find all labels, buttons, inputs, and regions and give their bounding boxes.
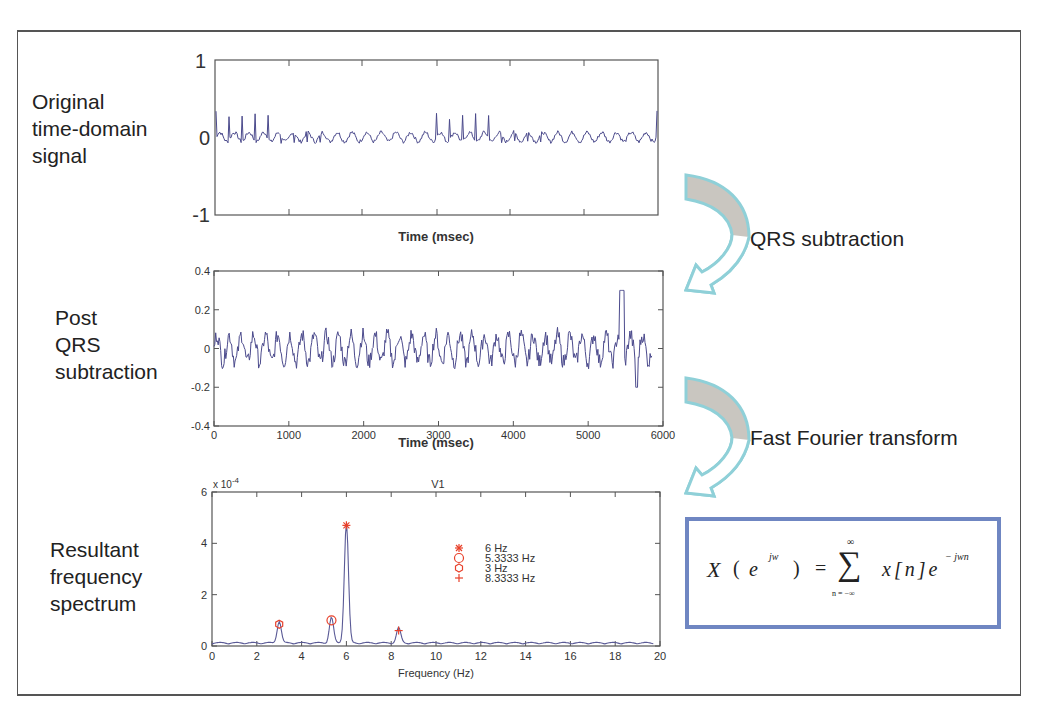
formula-paren-close: ): [793, 557, 800, 580]
svg-text:5000: 5000: [576, 429, 600, 441]
svg-text:0: 0: [204, 343, 210, 355]
svg-text:4: 4: [299, 650, 305, 662]
svg-text:2000: 2000: [351, 429, 375, 441]
formula-term: x[n]e: [882, 558, 940, 581]
chart-original-signal: 1 0 -1 Time (msec): [192, 50, 658, 244]
sum-symbol: ∑: [837, 545, 861, 583]
svg-text:0.2: 0.2: [195, 304, 210, 316]
chart-post-qrs: 01000200030004000500060000.40.20-0.2-0.4…: [191, 265, 675, 450]
curved-arrow-icon: [686, 175, 749, 293]
svg-text:6000: 6000: [651, 429, 675, 441]
arrow-label-fft: Fast Fourier transform: [750, 426, 958, 450]
svg-text:14: 14: [519, 650, 531, 662]
svg-text:-0.2: -0.2: [191, 381, 210, 393]
svg-text:6: 6: [201, 486, 207, 498]
formula-term-exp: − jwn: [945, 551, 969, 562]
peak-markers: [276, 521, 464, 634]
svg-text:20: 20: [654, 650, 666, 662]
svg-text:2: 2: [254, 650, 260, 662]
chart-frequency-spectrum: 024681012141618206420 x 10-4 V1 Frequenc…: [201, 476, 666, 679]
y-multiplier: x 10-4: [213, 476, 240, 490]
svg-text:0: 0: [201, 640, 207, 652]
x-axis-label: Time (msec): [398, 435, 474, 450]
arrow-label-qrs: QRS subtraction: [750, 227, 904, 251]
x-axis-label: Time (msec): [398, 229, 474, 244]
svg-text:0.4: 0.4: [195, 265, 210, 277]
formula-exp: jw: [769, 551, 778, 562]
chart-title: V1: [431, 478, 444, 490]
formula-base: e: [749, 558, 758, 581]
sum-lower: n = −∞: [832, 589, 855, 598]
svg-text:4000: 4000: [501, 429, 525, 441]
svg-text:10: 10: [430, 650, 442, 662]
ytick: 0: [199, 127, 210, 149]
svg-text:18: 18: [609, 650, 621, 662]
x-axis-label: Frequency (Hz): [398, 667, 474, 679]
svg-text:0: 0: [209, 650, 215, 662]
formula-paren-open: (: [733, 557, 740, 580]
legend: 6 Hz5.3333 Hz3 Hz8.3333 Hz: [485, 542, 535, 584]
ytick: -1: [192, 204, 210, 226]
formula-equals: =: [815, 557, 826, 580]
formula-lhs: X: [707, 557, 720, 583]
curved-arrow-icon: [686, 378, 749, 496]
svg-text:16: 16: [564, 650, 576, 662]
svg-text:6: 6: [343, 650, 349, 662]
svg-text:-0.4: -0.4: [191, 420, 210, 432]
svg-text:12: 12: [475, 650, 487, 662]
svg-text:1000: 1000: [277, 429, 301, 441]
svg-text:2: 2: [201, 589, 207, 601]
svg-text:8.3333 Hz: 8.3333 Hz: [485, 572, 535, 584]
svg-text:4: 4: [201, 537, 207, 549]
ytick: 1: [195, 50, 206, 72]
svg-text:8: 8: [388, 650, 394, 662]
dtft-formula: X ( e jw ) = ∞ ∑ n = −∞ x[n]e − jwn: [689, 521, 997, 625]
dtft-formula-box: X ( e jw ) = ∞ ∑ n = −∞ x[n]e − jwn: [685, 517, 1001, 629]
svg-text:0: 0: [211, 429, 217, 441]
